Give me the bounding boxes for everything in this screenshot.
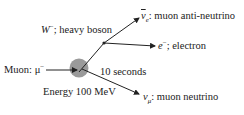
- w-vertex-dot: [102, 41, 105, 44]
- energy-label: Energy 100 MeV: [43, 86, 116, 98]
- electron-arrow: [104, 43, 155, 46]
- w-boson-label: W−; heavy boson: [41, 24, 112, 36]
- muon-label: Muon: μ−: [4, 64, 44, 76]
- antineutrino-label: νe: muon anti-neutrino: [141, 10, 235, 22]
- decay-circle: [70, 59, 89, 78]
- neutrino-label: νμ: muon neutrino: [143, 91, 218, 103]
- electron-label: e−; electron: [158, 40, 206, 52]
- lifetime-label: 10 seconds: [100, 66, 146, 78]
- muon-decay-diagram: νe: muon anti-neutrino W−; heavy boson e…: [0, 0, 244, 115]
